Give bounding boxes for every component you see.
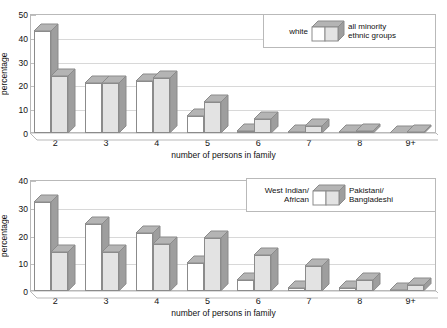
bar-front-face (85, 224, 102, 291)
bar (34, 31, 51, 133)
bar-top-face (136, 226, 162, 235)
bar (187, 116, 204, 133)
bar-front-face (187, 116, 204, 133)
bar (102, 252, 119, 291)
bar (204, 102, 221, 133)
bar-front-face (136, 81, 153, 133)
legend-label-pakistani-bangladeshi: Pakistani/ Bangladeshi (346, 186, 413, 204)
bar (356, 280, 373, 291)
bar-front-face (102, 83, 119, 133)
bar-front-face (204, 102, 221, 133)
bar-top-face (85, 217, 111, 226)
bar (136, 233, 153, 291)
bar-front-face (136, 233, 153, 291)
bar-top-face (51, 245, 77, 254)
legend-swatch-icon (312, 184, 346, 206)
bar-top-face (305, 259, 331, 268)
legend-label-white: white (264, 27, 311, 36)
bar-top-face (204, 231, 230, 240)
bar (254, 119, 271, 133)
bar-front-face (102, 252, 119, 291)
bar (187, 263, 204, 291)
bar (34, 202, 51, 291)
bar-top-face (356, 273, 382, 282)
bar-top-face (34, 195, 60, 204)
bar (204, 238, 221, 291)
bar-front-face (204, 238, 221, 291)
bar-front-face (187, 263, 204, 291)
bar (85, 224, 102, 291)
bottom-chart-legend: West Indian/ African Pakistani/ Banglade… (246, 178, 436, 212)
bar-front-face (305, 266, 322, 291)
legend-label-all-minority: all minority ethnic groups (345, 22, 408, 40)
bar (237, 280, 254, 291)
bar (85, 83, 102, 133)
bar-front-face (51, 252, 68, 291)
bar-front-face (34, 31, 51, 133)
bar-side-face (68, 69, 77, 135)
bar-front-face (254, 119, 271, 133)
bar-top-face (254, 112, 280, 121)
bar (136, 81, 153, 133)
bar-top-face (305, 119, 331, 128)
top-chart-legend: white all minority ethnic groups (263, 14, 436, 48)
bar-top-face (153, 237, 179, 246)
chart-west-indian-vs-pakistani: percentage 010203040 23456789+ number of… (0, 166, 447, 328)
bar-side-face (221, 231, 230, 293)
bar (51, 252, 68, 291)
bar (153, 244, 170, 291)
bar-side-face (170, 71, 179, 135)
bar-top-face (102, 76, 128, 85)
bar-top-face (153, 71, 179, 80)
bar-top-face (356, 124, 382, 133)
bar-top-face (204, 95, 230, 104)
bar-top-face (254, 248, 280, 257)
bar-front-face (153, 78, 170, 133)
floor-plane (30, 133, 438, 144)
bar-top-face (34, 24, 60, 33)
bar (153, 78, 170, 133)
legend-label-west-indian-african: West Indian/ African (247, 186, 312, 204)
bar-top-face (102, 245, 128, 254)
bottom-chart-x-axis-title: number of persons in family (0, 308, 447, 318)
bar (254, 255, 271, 291)
bar (305, 126, 322, 133)
legend-swatch-icon (311, 20, 345, 42)
bar-top-face (51, 69, 77, 78)
bar-front-face (34, 202, 51, 291)
bar-front-face (254, 255, 271, 291)
bar (51, 76, 68, 133)
top-chart-x-axis-title: number of persons in family (0, 150, 447, 160)
bar-front-face (51, 76, 68, 133)
bar-front-face (85, 83, 102, 133)
bar-front-face (153, 244, 170, 291)
bar (305, 266, 322, 291)
bar (102, 83, 119, 133)
floor-plane (30, 291, 438, 302)
chart-white-vs-all-minority: percentage 01020304050 23456789+ number … (0, 0, 447, 166)
bar-top-face (407, 278, 433, 287)
